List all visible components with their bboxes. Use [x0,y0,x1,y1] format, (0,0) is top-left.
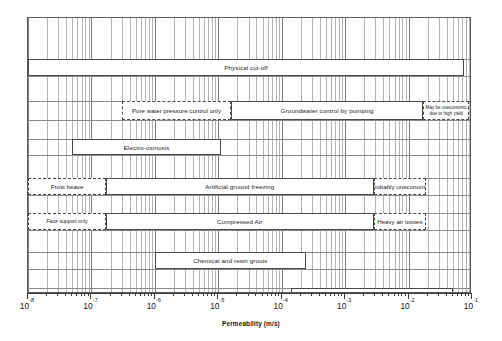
tick-minor [151,293,152,296]
x-axis-title: Permeability (m/s) [0,320,502,327]
tick-minor [140,293,141,296]
row-separator [28,76,470,77]
tick-minor [148,293,149,296]
tick-label-base: 10 [210,301,219,311]
tick-minor [427,293,428,296]
row-separator [28,269,470,270]
tick-minor [262,293,263,296]
tick-major [27,293,28,299]
tick-minor [338,293,339,296]
tick-major [471,293,472,299]
bar-electro-osmosis: Electro-osmosis [72,139,221,155]
tick-minor [267,293,268,296]
tick-label-base: 10 [400,301,409,311]
tick-minor [214,293,215,296]
tick-minor [394,293,395,296]
tick-minor [236,293,237,296]
tick-minor [144,293,145,296]
bar-label: Face support only [46,218,87,225]
permeability-chart: Physical cut-offPore water pressure cont… [0,0,502,341]
tick-minor [46,293,47,296]
tick-minor [382,293,383,296]
tick-label: 10-3 [337,300,351,311]
tick-minor [278,293,279,296]
tick-label-base: 10 [274,301,283,311]
plot-area: Physical cut-offPore water pressure cont… [27,17,471,293]
row-separator [28,155,470,156]
tick-minor [248,293,249,296]
tick-minor [81,293,82,296]
tick-minor [207,293,208,296]
tick-minor [88,293,89,296]
bar-physical-cut-off: Physical cut-off [28,59,464,76]
tick-minor [388,293,389,296]
bar-artificial-ground-freezing: Artificial ground freezing [106,178,373,195]
tick-minor [457,293,458,296]
tick-minor [438,293,439,296]
tick-minor [211,293,212,296]
tick-label: 10-4 [274,300,288,311]
tick-label-exponent: -1 [473,297,478,303]
bar-pore-water-pressure: Pore water pressure control only [122,101,232,120]
tick-major [217,293,218,299]
tick-minor [334,293,335,296]
tick-label: 10-8 [20,300,34,311]
tick-minor [84,293,85,296]
tick-minor [465,293,466,296]
tick-minor [71,293,72,296]
tick-label-exponent: -8 [29,297,34,303]
tick-minor [65,293,66,296]
tick-minor [203,293,204,296]
tick-label: 10-1 [464,300,478,311]
tick-label-exponent: -3 [346,297,351,303]
bar-probably-uneconomic: Probably uneconomic [374,178,427,195]
tick-label: 10-5 [210,300,224,311]
tick-major [90,293,91,299]
tick-major [408,293,409,299]
bar-label: Probably uneconomic [374,183,427,191]
tick-label-base: 10 [464,301,473,311]
tick-label-exponent: -2 [410,297,415,303]
tick-minor [363,293,364,296]
bar-label: Artificial ground freezing [205,183,274,190]
bar-face-support-only: Face support only [28,213,106,230]
tick-minor [135,293,136,296]
bar-label: Pore water pressure control only [132,107,221,115]
tick-label-base: 10 [147,301,156,311]
bar-frost-heave: Frost heave [28,178,106,195]
tick-major [281,293,282,299]
tick-minor [468,293,469,296]
tick-label-base: 10 [20,301,29,311]
row-separator [28,195,470,196]
tick-minor [129,293,130,296]
tick-minor [271,293,272,296]
bar-label: Groundwater control by pumping [281,107,374,114]
tick-minor [300,293,301,296]
tick-minor [446,293,447,296]
tick-minor [452,293,453,296]
tick-major [154,293,155,299]
bar-compressed-air: Compressed Air [106,213,373,230]
tick-label-exponent: -5 [219,297,224,303]
tick-label-exponent: -4 [283,297,288,303]
tick-minor [57,293,58,296]
tick-label-exponent: -6 [156,297,161,303]
tick-major [344,293,345,299]
tick-label: 10-2 [400,300,414,311]
tick-minor [173,293,174,296]
bar-label-line2: due to high yield [429,111,462,117]
tick-minor [311,293,312,296]
tick-minor [405,293,406,296]
bar-label: Frost heave [51,183,84,191]
bar-label: Electro-osmosis [124,144,170,151]
bar-groundwater-pumping: Groundwater control by pumping [231,101,423,120]
tick-label: 10-7 [83,300,97,311]
tick-minor [255,293,256,296]
tick-minor [330,293,331,296]
tick-label: 10-6 [147,300,161,311]
row-separator [28,120,470,121]
tick-minor [121,293,122,296]
tick-minor [401,293,402,296]
tick-label-base: 10 [83,301,92,311]
bar-label: Heavy air losses [377,218,422,226]
